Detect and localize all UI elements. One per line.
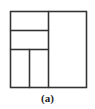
top-left-strip xyxy=(11,12,49,31)
middle-left-strip xyxy=(11,31,49,50)
figure-caption: (a) xyxy=(0,92,95,104)
partition-diagram: (a) xyxy=(0,0,95,109)
right-half xyxy=(49,12,87,88)
bottom-left-cell-2 xyxy=(30,50,49,88)
bottom-left-cell-1 xyxy=(11,50,30,88)
